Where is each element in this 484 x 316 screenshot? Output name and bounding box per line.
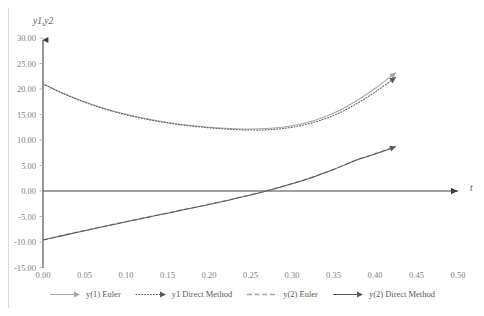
y-tick-label: 0.00 (2, 186, 36, 196)
chart-legend: y(1) Euler y1 Direct Method y(2) Euler y… (0, 286, 484, 302)
legend-label: y(1) Euler (86, 289, 121, 299)
x-tick-label: 0.50 (441, 270, 475, 280)
x-axis-title: t (470, 183, 473, 193)
y-tick-label: 30.00 (2, 33, 36, 43)
series-line-y2-direct-method (43, 147, 396, 240)
y-tick-label: 5.00 (2, 161, 36, 171)
x-tick-label: 0.00 (26, 270, 60, 280)
legend-item-y2-direct-method[interactable]: y(2) Direct Method (332, 289, 435, 299)
x-tick-label: 0.25 (234, 270, 268, 280)
x-tick-label: 0.05 (68, 270, 102, 280)
y-tick-label: 25.00 (2, 59, 36, 69)
y-tick-label: 15.00 (2, 110, 36, 120)
legend-label: y(2) Direct Method (369, 289, 435, 299)
series-line-y1-direct-method (43, 77, 396, 130)
legend-item-y1-euler[interactable]: y(1) Euler (49, 289, 121, 299)
legend-key-solid-light-icon (49, 290, 83, 299)
legend-key-dashed-light-icon (246, 290, 280, 299)
x-tick-label: 0.20 (192, 270, 226, 280)
y-tick-label: 10.00 (2, 135, 36, 145)
legend-item-y1-direct-method[interactable]: y1 Direct Method (135, 289, 232, 299)
chart-canvas (0, 0, 484, 316)
y-tick-label: -10.00 (2, 237, 36, 247)
series-line-y2-euler (43, 146, 396, 240)
y-tick-label: 20.00 (2, 84, 36, 94)
x-tick-label: 0.40 (358, 270, 392, 280)
x-tick-label: 0.35 (317, 270, 351, 280)
y-tick-label: -5.00 (2, 212, 36, 222)
legend-key-dotted-dark-icon (135, 290, 169, 299)
x-tick-label: 0.15 (151, 270, 185, 280)
legend-item-y2-euler[interactable]: y(2) Euler (246, 289, 318, 299)
y-axis-title: y1,y2 (33, 16, 53, 26)
x-tick-label: 0.45 (400, 270, 434, 280)
legend-key-solid-dark-icon (332, 290, 366, 299)
x-tick-label: 0.30 (275, 270, 309, 280)
legend-label: y(2) Euler (283, 289, 318, 299)
legend-label: y1 Direct Method (172, 289, 232, 299)
series-line-y1-euler (43, 73, 396, 129)
x-tick-label: 0.10 (109, 270, 143, 280)
